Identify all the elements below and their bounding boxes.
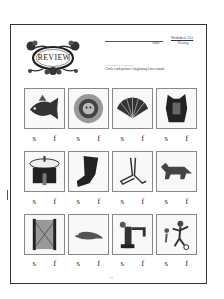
picture-fox (156, 151, 197, 192)
picture-seal (68, 214, 109, 255)
seal-icon (69, 215, 108, 254)
soccer-icon (157, 215, 196, 254)
fan-icon (113, 89, 152, 128)
margin-mark (7, 190, 8, 200)
feet-icon (113, 152, 152, 191)
choice-s[interactable]: s (33, 258, 37, 268)
fence-icon (25, 215, 64, 254)
choices-soccer: sf (156, 258, 197, 268)
fish-icon (25, 89, 64, 128)
choices-sun: sf (68, 133, 109, 143)
choices-saddle: sf (156, 133, 197, 143)
picture-soccer (156, 214, 197, 255)
choices-fish: sf (24, 133, 65, 143)
choices-sink: sf (24, 196, 65, 206)
choice-s[interactable]: s (165, 196, 169, 206)
choices-fan: sf (112, 133, 153, 143)
sock-icon (69, 152, 108, 191)
choices-sock: sf (68, 196, 109, 206)
choices-feet: sf (112, 196, 153, 206)
picture-sun (68, 88, 109, 129)
picture-sink (24, 151, 65, 192)
picture-fence (24, 214, 65, 255)
picture-faucet (112, 214, 153, 255)
choice-f[interactable]: f (185, 258, 188, 268)
choice-f[interactable]: f (141, 133, 144, 143)
choice-f[interactable]: f (97, 196, 100, 206)
choice-s[interactable]: s (77, 258, 81, 268)
saddle-icon (157, 89, 196, 128)
choice-f[interactable]: f (97, 258, 100, 268)
review-title: REVIEW (36, 53, 72, 62)
picture-sock (68, 151, 109, 192)
choice-f[interactable]: f (53, 196, 56, 206)
page-number: 42 (110, 276, 113, 279)
choice-s[interactable]: s (77, 133, 81, 143)
faucet-icon (113, 215, 152, 254)
sun-icon (69, 89, 108, 128)
choice-f[interactable]: f (53, 133, 56, 143)
choice-f[interactable]: f (141, 258, 144, 268)
choice-f[interactable]: f (185, 133, 188, 143)
picture-fan (112, 88, 153, 129)
choice-f[interactable]: f (53, 258, 56, 268)
worksheet-title: Worksheet 13A (171, 36, 193, 40)
choice-s[interactable]: s (121, 258, 125, 268)
choice-f[interactable]: f (185, 196, 188, 206)
choice-s[interactable]: s (121, 133, 125, 143)
picture-fish (24, 88, 65, 129)
choices-seal: sf (68, 258, 109, 268)
choice-f[interactable]: f (141, 196, 144, 206)
instructions-text: Circle each picture's beginning letter s… (105, 67, 165, 71)
sink-icon (25, 152, 64, 191)
picture-saddle (156, 88, 197, 129)
name-label: Name (152, 41, 160, 45)
fox-icon (157, 152, 196, 191)
choice-f[interactable]: f (97, 133, 100, 143)
picture-feet (112, 151, 153, 192)
choice-s[interactable]: s (165, 258, 169, 268)
choice-s[interactable]: s (33, 133, 37, 143)
choices-fox: sf (156, 196, 197, 206)
choice-s[interactable]: s (33, 196, 37, 206)
choice-s[interactable]: s (165, 133, 169, 143)
choice-s[interactable]: s (121, 196, 125, 206)
choice-s[interactable]: s (77, 196, 81, 206)
choices-faucet: sf (112, 258, 153, 268)
choices-fence: sf (24, 258, 65, 268)
worksheet-subtitle: Hearing (178, 41, 188, 45)
